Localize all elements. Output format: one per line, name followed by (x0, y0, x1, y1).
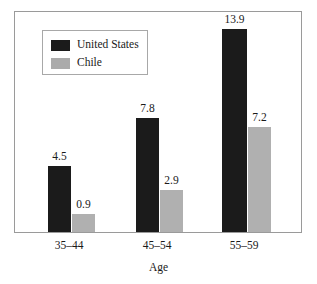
chart-legend: United States Chile (42, 30, 148, 75)
x-tick-label-55-59: 55–59 (217, 240, 271, 252)
legend-item-united-states: United States (51, 37, 147, 53)
legend-label-united-states: United States (77, 39, 139, 51)
legend-label-chile: Chile (77, 57, 102, 69)
data-label-united-states-35-44: 4.5 (44, 151, 75, 163)
data-label-chile-45-54: 2.9 (156, 175, 187, 187)
bar-chile-45-54 (160, 190, 183, 232)
bar-united-states-55-59 (222, 29, 247, 232)
legend-swatch-icon-united-states (51, 40, 70, 51)
x-axis-title: Age (0, 262, 317, 274)
x-tick-label-45-54: 45–54 (130, 240, 184, 252)
legend-item-chile: Chile (51, 55, 147, 71)
data-label-united-states-45-54: 7.8 (132, 103, 163, 115)
bar-chile-35-44 (72, 214, 95, 232)
data-label-united-states-55-59: 13.9 (217, 14, 252, 26)
x-tick-label-35-44: 35–44 (42, 240, 96, 252)
bar-chile-55-59 (248, 127, 271, 232)
data-label-chile-35-44: 0.9 (68, 199, 99, 211)
legend-swatch-icon-chile (51, 58, 70, 69)
bar-chart-figure: 4.5 0.9 7.8 2.9 13.9 7.2 United States C… (0, 0, 317, 284)
data-label-chile-55-59: 7.2 (244, 112, 275, 124)
